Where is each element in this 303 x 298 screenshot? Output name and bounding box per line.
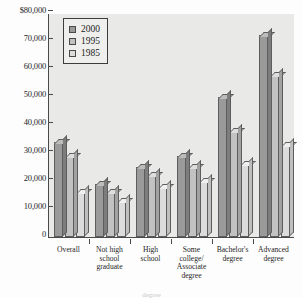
x-axis-label-line: degree (168, 272, 215, 281)
bar-top-face (95, 181, 111, 186)
bar-side-face (208, 174, 212, 236)
bar-group (213, 14, 254, 237)
x-axis-category-label: Somecollege/Associatedegree (168, 246, 215, 280)
bar-top-face (136, 164, 152, 169)
legend-swatch-icon (69, 38, 76, 45)
x-axis-label-line: Overall (45, 246, 92, 255)
chart-legend: 200019951985 (63, 18, 108, 64)
x-axis-tick-mark (89, 239, 90, 244)
bar-side-face (279, 68, 283, 236)
x-axis-category-label: Not highschoolgraduate (86, 246, 133, 272)
x-axis-label-line: graduate (86, 263, 133, 272)
bar-top-face (229, 128, 245, 133)
legend-entry-2000: 2000 (69, 23, 100, 35)
y-axis-tick-label: 50,000 (24, 90, 46, 99)
bar-group (131, 14, 172, 237)
bar-side-face (249, 157, 253, 236)
y-axis: 010,00020,00030,00040,00050,00060,00070,… (0, 10, 48, 242)
bar-top-face (65, 153, 81, 158)
bar-top-face (281, 142, 297, 147)
y-axis-tick-label: 60,000 (24, 62, 46, 71)
bar-side-face (227, 90, 231, 236)
y-axis-tick-label: $80,000 (20, 6, 46, 15)
y-axis-tick-label: 20,000 (24, 174, 46, 183)
y-axis-tick-label: 10,000 (24, 202, 46, 211)
legend-entry-1985: 1985 (69, 47, 100, 59)
bar-2000-1 (95, 184, 104, 237)
legend-label: 2000 (81, 24, 100, 34)
x-axis-label-line: school (127, 255, 174, 264)
legend-swatch-icon (69, 26, 76, 33)
bar-top-face (218, 94, 234, 99)
x-axis: OverallNot highschoolgraduateHighschoolS… (48, 239, 294, 289)
bar-2000-3 (177, 156, 186, 237)
y-axis-tick-mark (48, 206, 53, 207)
bar-2000-0 (54, 142, 63, 237)
x-axis-label-line: degree (209, 255, 256, 264)
bar-side-face (290, 138, 294, 236)
bar-side-face (268, 28, 272, 236)
bar-top-face (177, 153, 193, 158)
x-axis-category-label: Advanceddegree (250, 246, 297, 263)
x-axis-tick-mark (212, 239, 213, 244)
bar-2000-5 (259, 35, 268, 237)
bar-top-face (270, 72, 286, 77)
y-axis-tick-label: 0 (42, 230, 46, 239)
bar-top-face (54, 139, 70, 144)
y-axis-tick-mark (48, 38, 53, 39)
bar-side-face (104, 177, 108, 236)
bar-chart-figure: 010,00020,00030,00040,00050,00060,00070,… (0, 0, 303, 298)
bar-group (172, 14, 213, 237)
y-axis-tick-label: 70,000 (24, 34, 46, 43)
bar-top-face (188, 164, 204, 169)
x-axis-tick-mark (171, 239, 172, 244)
bar-side-face (145, 160, 149, 236)
bar-side-face (186, 149, 190, 236)
cut-off-footer-text: degree (0, 291, 303, 298)
bar-side-face (126, 194, 130, 236)
x-axis-category-label: Overall (45, 246, 92, 255)
x-axis-category-label: Bachelor'sdegree (209, 246, 256, 263)
legend-entry-1995: 1995 (69, 35, 100, 47)
bar-side-face (238, 124, 242, 236)
bar-2000-4 (218, 97, 227, 237)
legend-label: 1995 (81, 36, 100, 46)
bar-group (254, 14, 295, 237)
x-axis-tick-mark (253, 239, 254, 244)
x-axis-category-label: Highschool (127, 246, 174, 263)
x-axis-tick-mark (130, 239, 131, 244)
bar-side-face (167, 180, 171, 236)
bar-side-face (156, 168, 160, 236)
legend-swatch-icon (69, 50, 76, 57)
y-axis-tick-mark (48, 94, 53, 95)
bar-side-face (85, 185, 89, 236)
y-axis-tick-label: 40,000 (24, 118, 46, 127)
legend-label: 1985 (81, 48, 100, 58)
bar-side-face (63, 135, 67, 236)
y-axis-tick-mark (48, 150, 53, 151)
bar-2000-2 (136, 167, 145, 237)
bar-top-face (106, 189, 122, 194)
y-axis-tick-mark (48, 178, 53, 179)
y-axis-tick-mark (48, 10, 53, 11)
bar-top-face (259, 32, 275, 37)
bar-side-face (197, 160, 201, 236)
y-axis-tick-mark (48, 122, 53, 123)
y-axis-tick-mark (48, 66, 53, 67)
bar-side-face (74, 149, 78, 236)
y-axis-tick-label: 30,000 (24, 146, 46, 155)
x-axis-label-line: degree (250, 255, 297, 264)
bar-side-face (115, 185, 119, 236)
bar-top-face (147, 172, 163, 177)
